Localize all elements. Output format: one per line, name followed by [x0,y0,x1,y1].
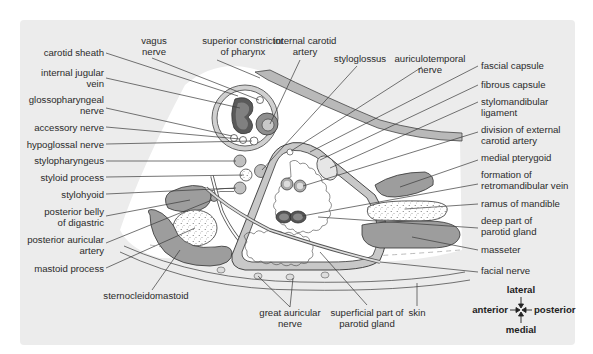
accessory-nerve-dot [240,137,247,144]
label-internal-jugular-vein: internal jugular [41,67,105,78]
great-auricular-nerve-a [217,267,225,273]
label-glossopharyngeal-nerve: glossopharyngeal [29,94,104,105]
label-posterior-auricular-artery: posterior auricular [27,234,105,245]
label-superior-constrictor-2: of pharynx [221,46,266,57]
great-auricular-nerve-d [321,272,329,278]
label-vagus-nerve: vagus [141,35,167,46]
label-stylopharyngeus: stylopharyngeus [34,155,104,166]
masseter [362,221,460,248]
label-skin: skin [408,307,425,318]
label-fascial-capsule: fascial capsule [481,60,544,71]
label-formation-retromandibular-vein: formation of [481,169,532,180]
label-styloid-process: styloid process [41,172,105,183]
label-sternocleidomastoid: sternocleidomastoid [103,290,188,301]
label-fibrous-capsule: fibrous capsule [481,79,546,90]
label-glossopharyngeal-nerve-2: nerve [80,105,104,116]
label-vagus-nerve-2: nerve [142,46,166,57]
label-styloglossus: styloglossus [334,53,386,64]
label-ramus-of-mandible: ramus of mandible [481,198,560,209]
label-posterior-belly-of-digastric-2: of digastric [58,217,105,228]
label-accessory-nerve: accessory nerve [34,122,104,133]
compass-posterior: posterior [534,304,576,315]
label-formation-retromandibular-vein-2: retromandibular vein [481,180,568,191]
label-deep-part-parotid: deep part of [481,215,533,226]
label-masseter: masseter [481,244,521,255]
label-internal-carotid-artery: internal carotid [274,35,337,46]
vagus-nerve [257,97,264,104]
label-great-auricular-nerve: great auricular [259,307,321,318]
label-facial-nerve: facial nerve [481,265,530,276]
label-internal-jugular-vein-2: vein [86,78,104,89]
label-internal-carotid-artery-2: artery [293,46,318,57]
compass-lateral: lateral [507,284,535,295]
label-carotid-sheath: carotid sheath [44,47,104,58]
label-auriculotemporal-nerve: auriculotemporal [395,53,466,64]
label-superficial-part-parotid-2: parotid gland [339,318,394,329]
label-superior-constrictor: superior constrictor [202,35,284,46]
label-hypoglossal-nerve: hypoglossal nerve [27,139,104,150]
label-medial-pterygoid: medial pterygoid [481,152,551,163]
label-auriculotemporal-nerve-2: nerve [418,64,442,75]
parotid-region-diagram: carotid sheath internal jugular vein glo… [0,0,593,354]
label-stylomandibular-ligament-2: ligament [481,107,518,118]
label-superficial-part-parotid: superficial part of [330,307,403,318]
label-stylohyoid: stylohyoid [61,189,104,200]
label-posterior-auricular-artery-2: artery [79,245,104,256]
label-division-external-carotid: division of external [481,124,560,135]
label-stylomandibular-ligament: stylomandibular [481,96,549,107]
label-deep-part-parotid-2: parotid gland [481,226,536,237]
label-posterior-belly-of-digastric: posterior belly [44,206,104,217]
label-great-auricular-nerve-2: nerve [278,318,302,329]
compass-medial: medial [506,324,536,335]
ramus-of-mandible [367,201,447,221]
label-mastoid-process: mastoid process [34,263,104,274]
label-division-external-carotid-2: carotid artery [481,135,537,146]
compass-anterior: anterior [472,304,508,315]
